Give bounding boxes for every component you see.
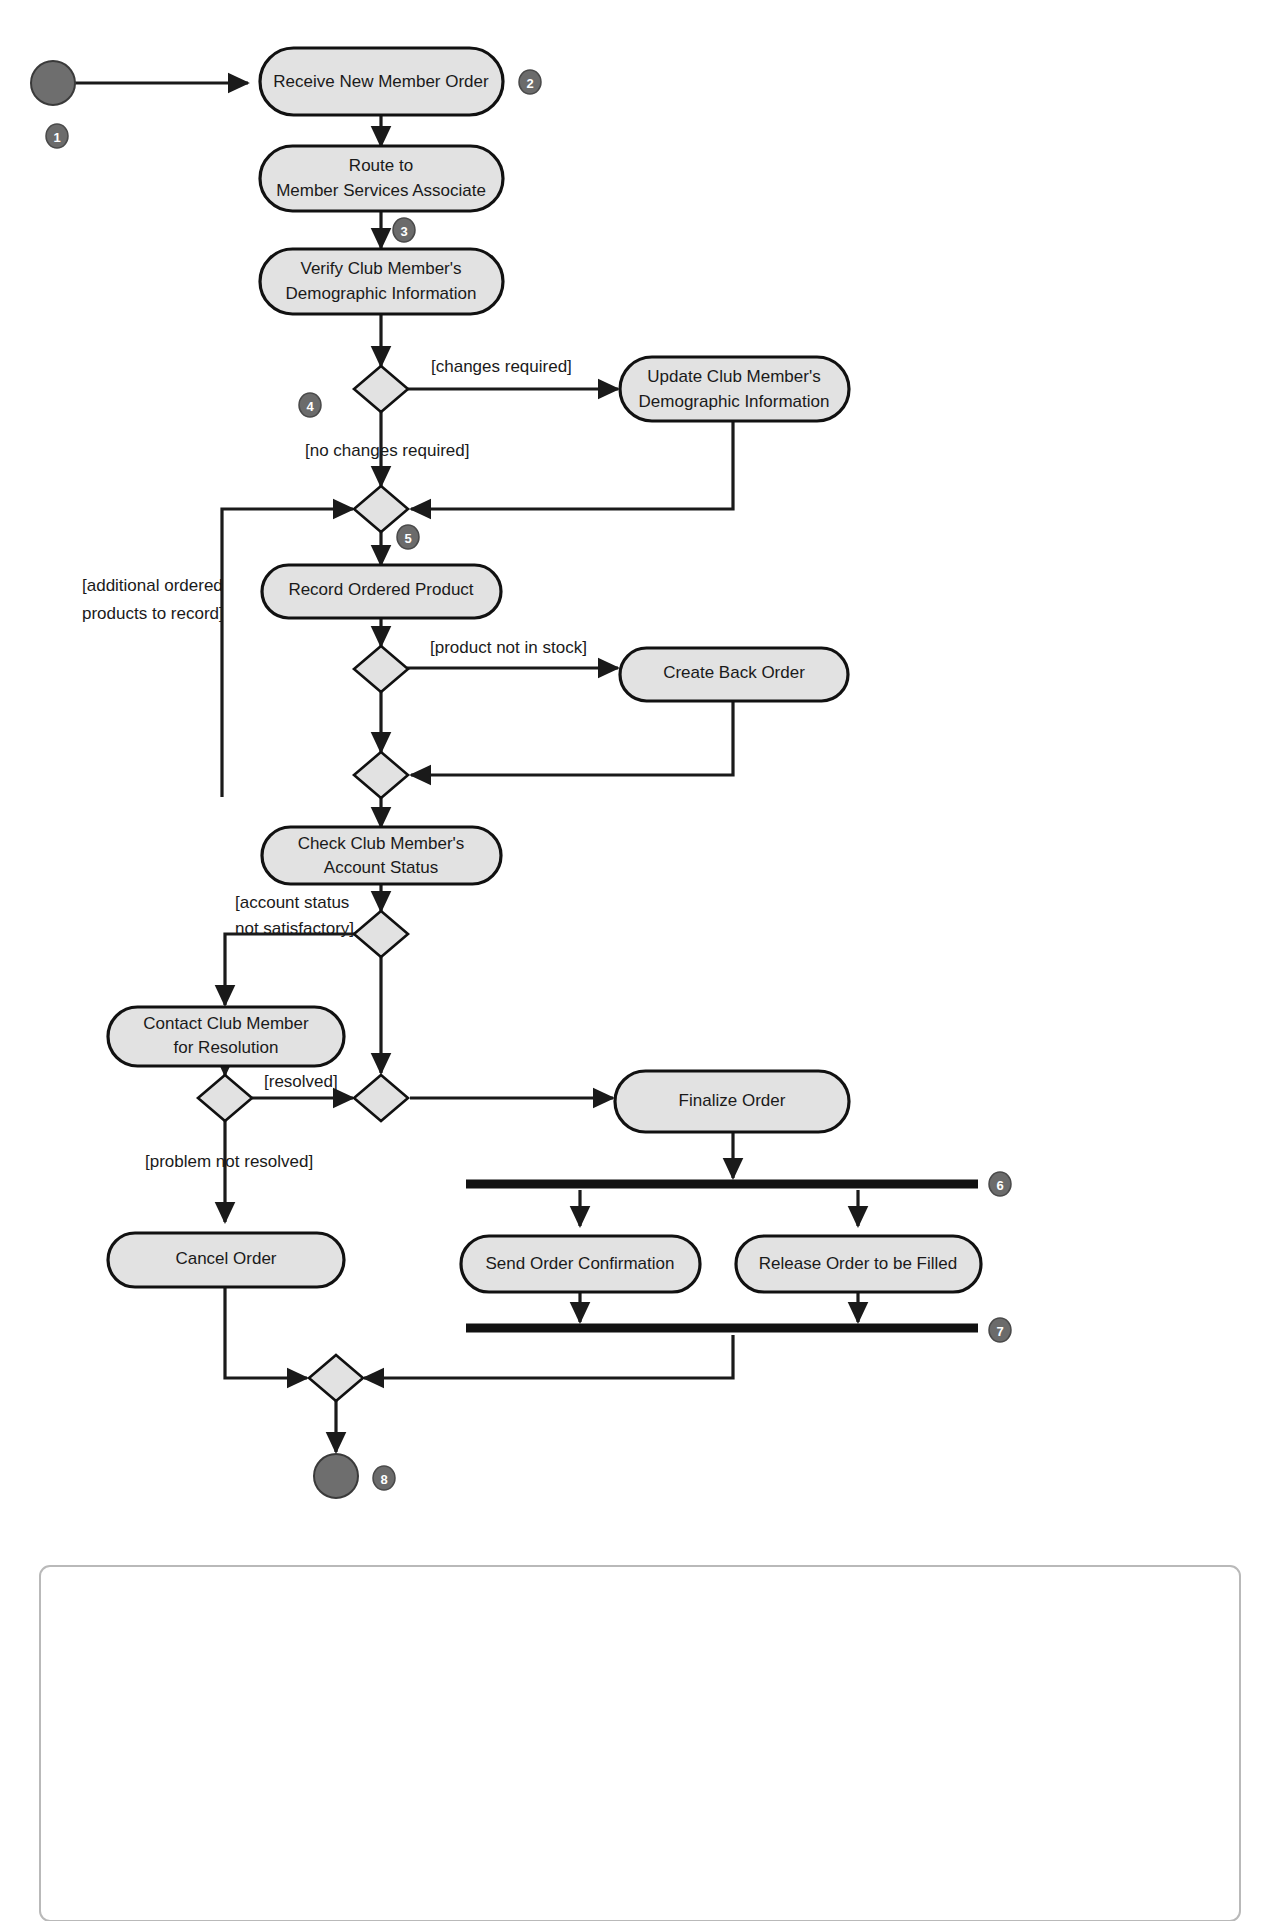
callout-6: 6 [989,1172,1011,1196]
guard-changes-required-line1: [changes required] [431,357,572,376]
guard-no-changes-required-line1: [no changes required] [305,441,469,460]
activity-verify-label-line2: Demographic Information [286,284,477,303]
guard-product-not-in-stock: [product not in stock] [430,638,587,657]
callout-6-number: 6 [996,1178,1003,1193]
guard-additional-products-line2: products to record] [82,604,224,623]
callout-7: 7 [989,1318,1011,1342]
activity-send-confirmation-label: Send Order Confirmation [486,1254,675,1273]
activity-contact-label-line2: for Resolution [174,1038,279,1057]
activity-route-label-line1: Route to [349,156,413,175]
activity-receive-label: Receive New Member Order [273,72,489,91]
guard-no-changes-required: [no changes required] [305,441,469,460]
activity-backorder[interactable]: Create Back Order [620,648,848,701]
callout-7-number: 7 [996,1324,1003,1339]
activity-check-account-label-line2: Account Status [324,858,438,877]
callout-8-number: 8 [380,1472,387,1487]
activity-verify-label-line1: Verify Club Member's [300,259,461,278]
activity-route-label-line2: Member Services Associate [276,181,486,200]
diagram-canvas: Receive New Member Order Route to Member… [0,0,1280,1921]
activity-contact-label-line1: Contact Club Member [143,1014,309,1033]
activity-check-account[interactable]: Check Club Member's Account Status [262,827,501,884]
guard-account-not-satisfactory-line2: not satisfactory] [235,919,354,938]
callout-2: 2 [519,70,541,94]
callout-3: 3 [393,218,415,242]
footer-panel [40,1566,1240,1921]
callout-2-number: 2 [526,76,533,91]
initial-node[interactable] [31,61,75,105]
callout-5-number: 5 [404,531,411,546]
callout-1: 1 [46,124,68,148]
activity-verify[interactable]: Verify Club Member's Demographic Informa… [260,249,503,314]
activity-cancel-label: Cancel Order [175,1249,276,1268]
activity-finalize-label: Finalize Order [679,1091,786,1110]
activity-record-label: Record Ordered Product [288,580,473,599]
callout-3-number: 3 [400,224,407,239]
activity-route[interactable]: Route to Member Services Associate [260,146,503,211]
activity-backorder-label: Create Back Order [663,663,805,682]
activity-diagram-svg: Receive New Member Order Route to Member… [0,0,1280,1921]
activity-update[interactable]: Update Club Member's Demographic Informa… [620,357,849,421]
guard-resolved: [resolved] [264,1072,338,1091]
guard-resolved-line1: [resolved] [264,1072,338,1091]
guard-problem-not-resolved: [problem not resolved] [145,1152,313,1171]
guard-account-not-satisfactory-line1: [account status [235,893,349,912]
callout-4-number: 4 [306,399,314,414]
activity-release-order[interactable]: Release Order to be Filled [736,1236,981,1292]
activity-update-label-line2: Demographic Information [639,392,830,411]
activity-contact[interactable]: Contact Club Member for Resolution [108,1007,344,1066]
activity-update-label-line1: Update Club Member's [647,367,820,386]
activity-cancel[interactable]: Cancel Order [108,1233,344,1287]
callout-5: 5 [397,525,419,549]
guard-additional-products-line1: [additional ordered [82,576,223,595]
guard-problem-not-resolved-line1: [problem not resolved] [145,1152,313,1171]
activity-release-order-label: Release Order to be Filled [759,1254,957,1273]
activity-send-confirmation[interactable]: Send Order Confirmation [461,1236,700,1292]
activity-receive[interactable]: Receive New Member Order [260,48,503,115]
callout-1-number: 1 [53,130,60,145]
guard-product-not-in-stock-line1: [product not in stock] [430,638,587,657]
activity-record[interactable]: Record Ordered Product [262,565,501,618]
activity-check-account-label-line1: Check Club Member's [298,834,465,853]
activity-finalize[interactable]: Finalize Order [615,1071,849,1132]
callout-8: 8 [373,1466,395,1490]
final-node[interactable] [314,1454,358,1498]
guard-changes-required: [changes required] [431,357,572,376]
callout-4: 4 [299,393,321,417]
